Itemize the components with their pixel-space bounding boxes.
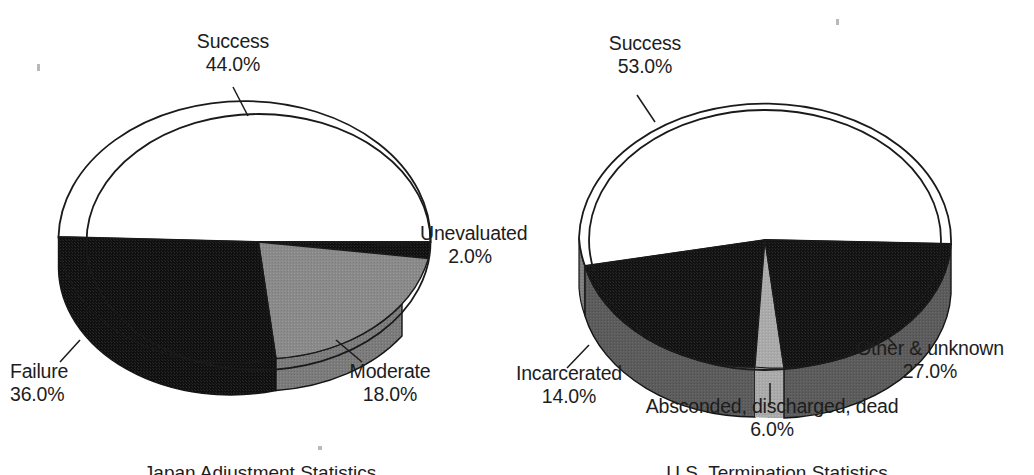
right-pie-top-face — [579, 104, 951, 370]
chart-us-termination: Success 53.0% Other & unknown 27.0% Absc… — [517, 0, 1034, 475]
label-absconded: Absconded, discharged, dead 6.0% — [622, 395, 922, 441]
label-moderate-name: Moderate — [350, 360, 431, 382]
caption-us-termination: U.S. Termination Statistics — [577, 462, 977, 475]
label-failure-name: Failure — [10, 360, 68, 382]
label-unevaluated-name: Unevaluated — [420, 222, 527, 244]
label-other-unknown: Other & unknown 27.0% — [835, 337, 1025, 383]
label-success-name: Success — [609, 32, 681, 54]
label-incarcerated-name: Incarcerated — [516, 362, 622, 384]
label-incarcerated: Incarcerated 14.0% — [484, 362, 654, 408]
caption-japan-adjustment: Japan Adjustment Statistics — [60, 462, 460, 475]
scan-speck — [318, 446, 322, 450]
label-moderate-value: 18.0% — [330, 383, 450, 406]
label-unevaluated-value: 2.0% — [420, 245, 520, 268]
figure-canvas: Success 44.0% Unevaluated 2.0% Moderate … — [0, 0, 1034, 475]
left-slice-moderate — [259, 242, 429, 359]
label-success: Success 53.0% — [575, 32, 715, 78]
label-other-unknown-name: Other & unknown — [856, 337, 1004, 359]
label-incarcerated-value: 14.0% — [484, 385, 654, 408]
scan-speck — [836, 19, 839, 25]
label-absconded-name: Absconded, discharged, dead — [646, 395, 899, 417]
label-unevaluated: Unevaluated 2.0% — [420, 222, 520, 268]
label-success-name: Success — [197, 30, 269, 52]
label-other-unknown-value: 27.0% — [835, 360, 1025, 383]
label-absconded-value: 6.0% — [622, 418, 922, 441]
label-failure-value: 36.0% — [10, 383, 130, 406]
leader-success — [637, 95, 655, 122]
label-moderate: Moderate 18.0% — [330, 360, 450, 406]
left-slice-failure — [59, 237, 277, 363]
scan-speck — [37, 64, 40, 71]
leader-failure — [60, 340, 80, 362]
label-failure: Failure 36.0% — [10, 360, 130, 406]
label-success-value: 53.0% — [575, 55, 715, 78]
label-success-value: 44.0% — [163, 53, 303, 76]
chart-japan-adjustment: Success 44.0% Unevaluated 2.0% Moderate … — [0, 0, 517, 475]
label-success: Success 44.0% — [163, 30, 303, 76]
